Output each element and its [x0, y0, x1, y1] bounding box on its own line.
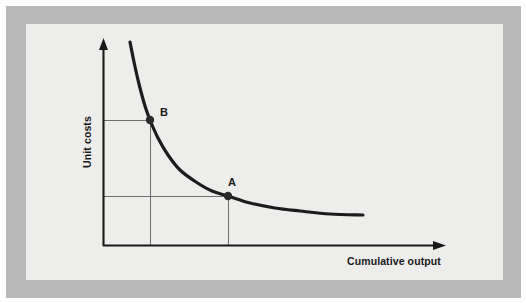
point-labels: B A — [160, 106, 236, 188]
curve-group — [130, 42, 363, 215]
experience-curve-path — [130, 42, 363, 215]
axes — [99, 38, 446, 250]
data-point-a-label: A — [228, 176, 236, 188]
data-point-b-label: B — [160, 106, 168, 118]
data-point-b-marker[interactable] — [146, 116, 154, 124]
y-axis-arrow-icon — [99, 38, 108, 50]
data-point-a-marker[interactable] — [224, 192, 232, 200]
data-points — [146, 116, 232, 200]
x-axis-arrow-icon — [433, 241, 446, 250]
axis-titles: Unit costs Cumulative output — [81, 116, 441, 267]
x-axis-title: Cumulative output — [347, 255, 441, 267]
y-axis-title: Unit costs — [81, 116, 93, 168]
experience-curve-figure: B A Unit costs Cumulative output — [0, 0, 526, 303]
guide-lines — [103, 120, 228, 246]
experience-curve-plot: B A Unit costs Cumulative output — [0, 0, 526, 303]
